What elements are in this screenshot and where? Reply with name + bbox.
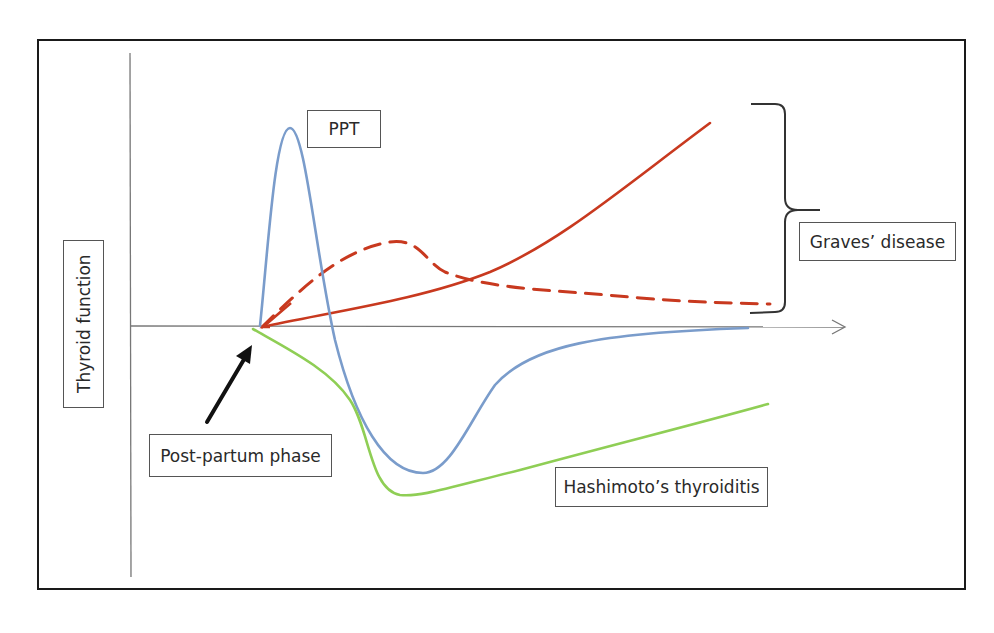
x-axis	[131, 320, 845, 334]
postpartum-label: Post-partum phase	[149, 434, 332, 477]
postpartum-arrow-icon	[207, 345, 252, 422]
y-axis-label: Thyroid function	[63, 240, 104, 408]
graves-label: Graves’ disease	[799, 222, 956, 261]
graves-progressive-curve	[262, 123, 710, 327]
hashimoto-label: Hashimoto’s thyroiditis	[555, 467, 768, 507]
graves-transient-curve	[262, 242, 770, 327]
diagram-canvas	[0, 0, 994, 633]
ppt-label: PPT	[307, 110, 381, 148]
graves-brace-icon	[750, 104, 820, 313]
y-axis-line	[130, 53, 131, 577]
